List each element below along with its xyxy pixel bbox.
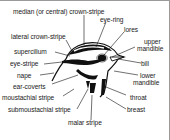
bird-topography-diagram: median (or central) crown-stripe eye-rin…: [0, 0, 170, 140]
label-nape: nape: [17, 72, 31, 79]
leader-lower-mandible: [114, 71, 138, 75]
label-upper-mandible-line2: mandible: [137, 45, 163, 52]
leader-submoustachial: [77, 89, 88, 109]
label-breast: breast: [127, 106, 145, 113]
label-lower-mandible-line1: lower: [140, 72, 156, 79]
malar-stripe-shape: [90, 83, 96, 93]
label-lower-mandible-line2: mandible: [133, 79, 159, 86]
label-bill: bill: [141, 60, 149, 67]
leader-nape: [40, 73, 54, 75]
leader-lateral-crown: [66, 40, 72, 51]
label-malar-stripe: malar stripe: [68, 119, 102, 126]
leader-throat: [106, 87, 126, 95]
label-eye-ring: eye-ring: [100, 16, 123, 23]
label-moustachial-stripe: moustachial stripe: [2, 94, 54, 101]
label-throat: throat: [130, 94, 147, 101]
label-lores: lores: [124, 26, 138, 33]
submoustachial-shape: [86, 81, 90, 89]
leader-ear-coverts: [52, 75, 78, 84]
label-median-crown-stripe: median (or central) crown-stripe: [13, 8, 104, 15]
leader-breast: [106, 97, 126, 109]
leader-bill: [118, 59, 141, 63]
eye-shape: [98, 55, 106, 61]
label-supercilium: supercilium: [14, 48, 47, 55]
leader-lores: [104, 32, 124, 55]
leader-moustachial: [63, 89, 74, 96]
label-submoustachial-stripe: submoustachial stripe: [8, 106, 71, 113]
moustachial-stripe-shape: [76, 69, 98, 80]
label-ear-coverts: ear-coverts: [13, 83, 45, 90]
label-eye-stripe: eye-stripe: [10, 60, 38, 67]
leader-eye-stripe: [44, 62, 62, 64]
label-lateral-crown-stripe: lateral crown-stripe: [11, 33, 66, 40]
label-upper-mandible-line1: upper: [144, 38, 161, 45]
leader-malar: [91, 95, 92, 120]
